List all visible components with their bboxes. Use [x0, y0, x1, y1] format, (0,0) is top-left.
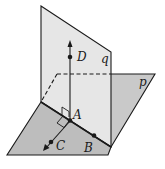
label-p: p [139, 75, 147, 89]
label-q: q [101, 52, 109, 66]
point-d [68, 55, 73, 60]
point-c [49, 140, 54, 145]
label-c: C [56, 139, 65, 153]
label-d: D [76, 50, 87, 64]
point-a [68, 118, 73, 123]
geometry-figure: D q p A C B [0, 0, 165, 169]
label-b: B [83, 141, 93, 155]
point-b [92, 133, 97, 138]
label-a: A [72, 108, 82, 122]
